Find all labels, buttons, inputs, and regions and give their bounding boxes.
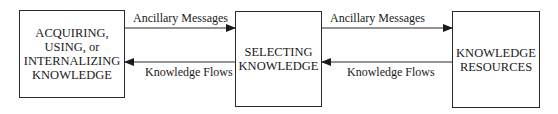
- edge-label-knowledge-flows: Knowledge Flows: [145, 65, 233, 80]
- node-label: ACQUIRING, USING, or INTERNALIZING KNOWL…: [24, 26, 121, 82]
- node-knowledge-resources: KNOWLEDGE RESOURCES: [452, 11, 540, 108]
- node-selecting-knowledge: SELECTING KNOWLEDGE: [235, 11, 322, 107]
- node-label: SELECTING KNOWLEDGE: [239, 45, 319, 73]
- node-acquiring-using-internalizing: ACQUIRING, USING, or INTERNALIZING KNOWL…: [19, 10, 125, 98]
- edge-label-ancillary-messages: Ancillary Messages: [330, 11, 425, 26]
- edge-label-ancillary-messages: Ancillary Messages: [133, 11, 228, 26]
- edge-label-knowledge-flows: Knowledge Flows: [347, 65, 435, 80]
- node-label: KNOWLEDGE RESOURCES: [456, 46, 536, 74]
